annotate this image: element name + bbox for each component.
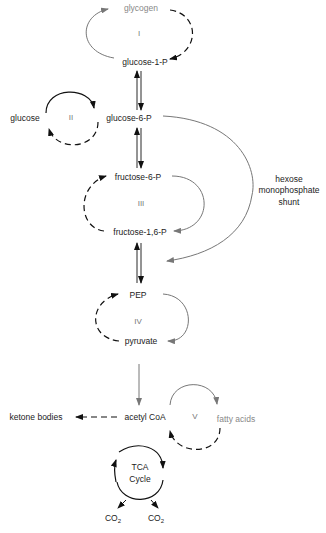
arrow-f6p-to-f16p — [172, 176, 204, 231]
cycle-label-v: V — [192, 413, 197, 421]
shunt-label-line3: shunt — [279, 198, 300, 207]
node-pep: PEP — [129, 291, 146, 300]
arrow-pep-to-pyruvate — [163, 294, 188, 341]
node-glycogen: glycogen — [124, 4, 158, 13]
co2-left-text: CO — [105, 513, 118, 523]
arrow-acetylcoa-to-fatty-acids — [170, 385, 217, 405]
tca-cycle-left-arc — [115, 460, 117, 482]
node-glucose-6-p: glucose-6-P — [106, 114, 151, 123]
arrow-g6p-to-glucose — [49, 122, 98, 145]
arrow-glycogen-to-g1p — [170, 10, 193, 59]
node-glucose: glucose — [10, 114, 39, 123]
arrow-tca-to-co2-left — [118, 500, 126, 508]
node-fructose-1-6-p: fructose-1,6-P — [113, 228, 166, 237]
node-acetyl-coa: acetyl CoA — [124, 413, 165, 422]
node-fructose-6-p: fructose-6-P — [115, 173, 161, 182]
node-co2-left: CO2 — [105, 514, 121, 524]
arrow-hexose-monophosphate-shunt — [163, 116, 253, 261]
shunt-label-line1: hexose — [275, 175, 302, 184]
co2-right-subscript: 2 — [161, 518, 164, 524]
node-fatty-acids: fatty acids — [217, 415, 255, 424]
cycle-label-iii: III — [138, 200, 145, 208]
node-co2-right: CO2 — [148, 514, 164, 524]
metabolic-pathway-diagram: glycogen I glucose-1-P glucose II glucos… — [0, 0, 326, 533]
shunt-label-line2: monophosphate — [259, 186, 320, 195]
arrow-fatty-acids-to-acetylcoa — [170, 428, 220, 449]
node-glucose-1-p: glucose-1-P — [122, 58, 167, 67]
cycle-label-ii: II — [69, 114, 73, 122]
node-pyruvate: pyruvate — [125, 337, 158, 346]
node-tca-line2: Cycle — [129, 475, 150, 484]
arrow-glucose-to-g6p — [46, 92, 94, 113]
cycle-label-iv: IV — [134, 318, 142, 326]
co2-right-text: CO — [148, 513, 161, 523]
arrow-tca-to-co2-right — [151, 500, 158, 508]
node-tca-line1: TCA — [132, 463, 149, 472]
node-ketone-bodies: ketone bodies — [10, 413, 63, 422]
pathway-arrows — [0, 0, 326, 533]
co2-left-subscript: 2 — [118, 518, 121, 524]
arrow-g1p-to-glycogen — [86, 9, 114, 58]
cycle-label-i: I — [138, 30, 140, 38]
arrow-pyruvate-to-pep — [96, 294, 119, 341]
arrow-f16p-to-f6p — [84, 176, 106, 231]
